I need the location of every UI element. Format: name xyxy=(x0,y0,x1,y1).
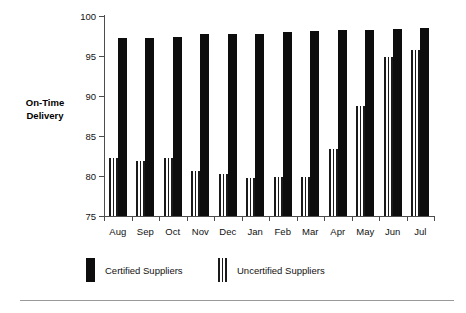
bar-certified xyxy=(365,30,374,216)
x-axis-tick xyxy=(434,216,435,221)
bar-certified xyxy=(173,37,182,216)
x-axis-tick-label: Jan xyxy=(248,226,263,237)
legend-label-uncertified: Uncertified Suppliers xyxy=(237,265,325,276)
x-axis-tick-label: Mar xyxy=(302,226,318,237)
y-axis-line xyxy=(104,15,105,217)
bar-uncertified xyxy=(109,158,118,216)
bar-uncertified xyxy=(246,178,255,216)
chart-root: On-Time Delivery 7580859095100 AugSepOct… xyxy=(0,0,466,313)
solid-black-swatch-icon xyxy=(86,258,95,282)
x-axis-tick-label: Feb xyxy=(275,226,291,237)
bar-certified xyxy=(255,34,264,216)
x-axis-tick xyxy=(297,216,298,221)
chart-legend: Certified Suppliers Uncertified Supplier… xyxy=(0,258,466,288)
bar-uncertified xyxy=(164,158,173,216)
bottom-divider xyxy=(20,300,454,301)
legend-item-uncertified: Uncertified Suppliers xyxy=(218,258,325,282)
y-axis-tick-label: 100 xyxy=(80,11,96,22)
bar-uncertified xyxy=(136,161,145,216)
striped-swatch-icon xyxy=(218,258,227,282)
x-axis-tick xyxy=(379,216,380,221)
bar-certified xyxy=(283,32,292,216)
x-axis-tick-label: May xyxy=(356,226,374,237)
bar-certified xyxy=(145,38,154,216)
x-axis-tick xyxy=(187,216,188,221)
bar-uncertified xyxy=(219,174,228,216)
legend-label-certified: Certified Suppliers xyxy=(105,265,183,276)
y-axis-tick-label: 90 xyxy=(85,91,96,102)
y-axis-tick-label: 80 xyxy=(85,171,96,182)
bar-uncertified xyxy=(329,149,338,216)
bar-uncertified xyxy=(274,177,283,216)
x-axis-tick xyxy=(104,216,105,221)
bar-uncertified xyxy=(356,106,365,216)
x-axis-tick-label: Oct xyxy=(165,226,180,237)
plot-area: 7580859095100 AugSepOctNovDecJanFebMarAp… xyxy=(104,16,434,216)
y-axis-tick-label: 95 xyxy=(85,51,96,62)
x-axis-tick xyxy=(214,216,215,221)
y-axis-tick xyxy=(99,176,104,177)
y-axis-tick xyxy=(99,96,104,97)
x-axis-tick-label: Dec xyxy=(219,226,236,237)
y-axis-tick xyxy=(99,136,104,137)
x-axis-tick-label: Nov xyxy=(192,226,209,237)
bar-certified xyxy=(393,29,402,216)
y-axis-tick xyxy=(99,16,104,17)
bar-certified xyxy=(420,28,429,216)
y-axis-title: On-Time Delivery xyxy=(8,96,82,122)
bar-uncertified xyxy=(191,171,200,216)
y-axis-title-line-2: Delivery xyxy=(8,109,82,122)
y-axis-tick-label: 85 xyxy=(85,131,96,142)
x-axis-tick-label: Aug xyxy=(109,226,126,237)
x-axis-tick xyxy=(242,216,243,221)
bar-certified xyxy=(338,30,347,216)
x-axis-tick-label: Jun xyxy=(385,226,400,237)
x-axis-tick-label: Jul xyxy=(414,226,426,237)
x-axis-tick-label: Sep xyxy=(137,226,154,237)
bar-certified xyxy=(228,34,237,216)
y-axis-tick-label: 75 xyxy=(85,211,96,222)
legend-item-certified: Certified Suppliers xyxy=(86,258,183,282)
x-axis-tick xyxy=(352,216,353,221)
y-axis-tick xyxy=(99,56,104,57)
bar-certified xyxy=(310,31,319,216)
x-axis-tick xyxy=(132,216,133,221)
x-axis-tick xyxy=(159,216,160,221)
bar-certified xyxy=(200,34,209,216)
bar-uncertified xyxy=(411,50,420,216)
x-axis-tick xyxy=(324,216,325,221)
y-axis-title-line-1: On-Time xyxy=(8,96,82,109)
bar-uncertified xyxy=(384,57,393,216)
x-axis-tick-label: Apr xyxy=(330,226,345,237)
x-axis-tick xyxy=(269,216,270,221)
bar-certified xyxy=(118,38,127,216)
x-axis-tick xyxy=(407,216,408,221)
bar-uncertified xyxy=(301,177,310,216)
